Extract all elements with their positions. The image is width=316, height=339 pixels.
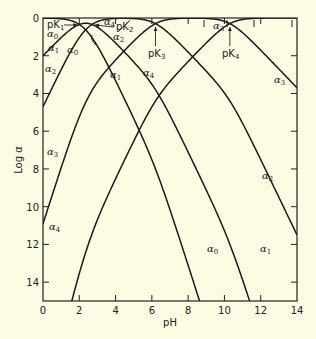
curve-label-alpha-3: α3 bbox=[47, 146, 58, 159]
curve-label-alpha-3: α3 bbox=[274, 74, 285, 87]
y-tick-label: 6 bbox=[33, 126, 39, 137]
x-tick-label: 4 bbox=[112, 305, 118, 316]
curve-label-alpha-2: α2 bbox=[262, 170, 273, 183]
annotations: α0α1α2α0α2α1α4α3α4α3α3α2α4α0α1pK1pK2pK3p… bbox=[45, 16, 292, 256]
curve-label-alpha-1: α1 bbox=[48, 42, 59, 55]
y-tick-label: 12 bbox=[26, 239, 39, 250]
x-tick-label: 14 bbox=[291, 305, 304, 316]
x-tick-label: 8 bbox=[185, 305, 191, 316]
pk3-label: pK3 bbox=[148, 48, 165, 61]
pk4-label: pK4 bbox=[222, 48, 240, 61]
plot-frame bbox=[43, 18, 297, 301]
curve-label-alpha-1: α1 bbox=[260, 243, 271, 256]
curve-label-alpha-4: α4 bbox=[49, 221, 61, 234]
y-axis-title: Log α bbox=[13, 146, 24, 174]
y-tick-label: 0 bbox=[33, 13, 39, 24]
curve-label-alpha-4: α4 bbox=[143, 67, 155, 80]
x-tick-label: 12 bbox=[254, 305, 267, 316]
curve-alpha-4 bbox=[43, 18, 297, 320]
curve-alpha-1 bbox=[43, 23, 297, 320]
curves bbox=[43, 18, 297, 320]
x-tick-label: 10 bbox=[218, 305, 231, 316]
curve-alpha-0 bbox=[43, 18, 297, 320]
curve-label-alpha-0: α0 bbox=[207, 243, 218, 256]
x-tick-label: 6 bbox=[149, 305, 155, 316]
y-tick-label: 14 bbox=[26, 277, 39, 288]
y-tick-label: 8 bbox=[33, 164, 39, 175]
curve-label-alpha-2: α2 bbox=[45, 63, 56, 76]
curve-alpha-3 bbox=[43, 18, 297, 224]
curve-alpha-2 bbox=[43, 18, 297, 235]
alpha-distribution-chart: 0246810121402468101214 α0α1α2α0α2α1α4α3α… bbox=[0, 0, 316, 339]
y-tick-label: 4 bbox=[33, 88, 39, 99]
pk4-arrowhead bbox=[228, 27, 232, 31]
x-axis-title: pH bbox=[163, 317, 177, 328]
x-tick-label: 2 bbox=[76, 305, 82, 316]
pk3-arrowhead bbox=[153, 27, 157, 31]
y-tick-label: 10 bbox=[26, 202, 39, 213]
x-tick-label: 0 bbox=[40, 305, 46, 316]
y-tick-label: 2 bbox=[33, 51, 39, 62]
